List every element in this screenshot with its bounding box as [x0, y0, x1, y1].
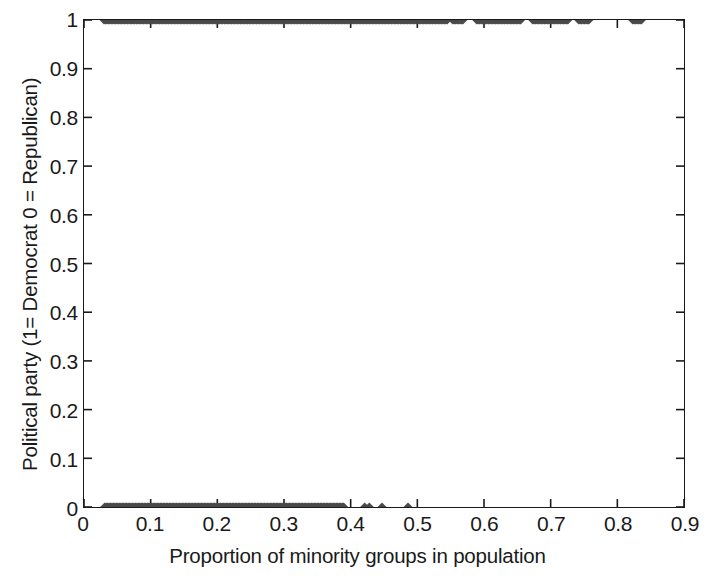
- x-axis-tick-labels: 00.10.20.30.40.50.60.70.80.9: [0, 513, 715, 543]
- data-markers-layer: [84, 20, 684, 507]
- plot-area: [83, 19, 685, 508]
- x-axis-title: Proportion of minority groups in populat…: [0, 546, 715, 567]
- y-tick-label: 0.2: [50, 400, 78, 421]
- x-tick-label: 0.6: [470, 513, 498, 534]
- y-axis-title: Political party (1= Democrat 0 = Republi…: [20, 39, 41, 509]
- x-tick-label: 0: [77, 513, 88, 534]
- x-tick-label: 0.9: [671, 513, 699, 534]
- x-tick-label: 0.3: [270, 513, 298, 534]
- x-tick-label: 0.7: [537, 513, 565, 534]
- scatter-plot-figure: Political party (1= Democrat 0 = Republi…: [0, 0, 715, 579]
- x-tick-label: 0.5: [403, 513, 431, 534]
- y-tick-label: 0.8: [50, 106, 78, 127]
- y-tick-label: 0.4: [50, 302, 78, 323]
- y-tick-label: 0.5: [50, 253, 78, 274]
- x-tick-label: 0.4: [336, 513, 364, 534]
- y-tick-label: 1: [67, 9, 78, 30]
- x-tick-label: 0.8: [604, 513, 632, 534]
- y-tick-label: 0.1: [50, 449, 78, 470]
- x-tick-label: 0.1: [136, 513, 164, 534]
- x-tick-label: 0.2: [203, 513, 231, 534]
- y-tick-label: 0.6: [50, 204, 78, 225]
- y-tick-label: 0.7: [50, 155, 78, 176]
- y-tick-label: 0.9: [50, 57, 78, 78]
- data-marker: [378, 503, 387, 507]
- y-tick-label: 0: [67, 498, 78, 519]
- y-tick-label: 0.3: [50, 351, 78, 372]
- data-marker: [404, 503, 413, 507]
